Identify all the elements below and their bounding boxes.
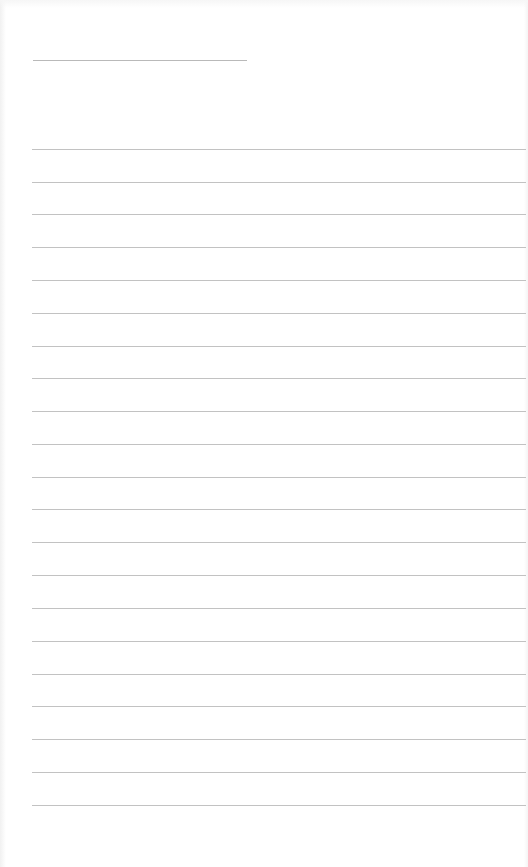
ruled-line [32, 477, 526, 478]
ruled-line [32, 247, 526, 248]
ruled-line [32, 772, 526, 773]
ruled-line [32, 575, 526, 576]
page-edge-shadow-top [0, 0, 528, 8]
ruled-line [32, 674, 526, 675]
page-edge-shadow-right [524, 0, 528, 867]
ruled-line [32, 608, 526, 609]
page-edge-shadow-left [0, 0, 6, 867]
ruled-line [32, 509, 526, 510]
ruled-line [32, 641, 526, 642]
ruled-line [32, 378, 526, 379]
ruled-line [32, 280, 526, 281]
ruled-line [32, 542, 526, 543]
lined-paper-page [0, 0, 528, 867]
ruled-line [32, 739, 526, 740]
ruled-line [32, 182, 526, 183]
ruled-line [32, 706, 526, 707]
ruled-line [32, 149, 526, 150]
ruled-line [32, 805, 526, 806]
ruled-line [32, 346, 526, 347]
ruled-line [32, 313, 526, 314]
name-line [33, 60, 247, 61]
ruled-line [32, 214, 526, 215]
ruled-line [32, 411, 526, 412]
ruled-line [32, 444, 526, 445]
